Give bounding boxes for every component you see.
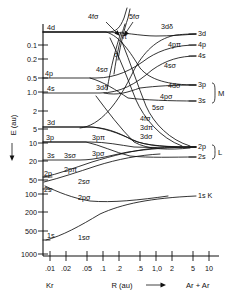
right-level-label-3p: 3p <box>198 80 206 89</box>
right-level-label-1s-K: 1s K <box>198 191 213 200</box>
right-level-label-4p: 4p <box>198 40 206 49</box>
right-level-label-4s: 4s <box>198 51 206 60</box>
left-level-label-3p: 3p <box>46 133 54 142</box>
left-level-label-1s: 1s <box>47 231 55 240</box>
diagram-canvas: 0.1 0.2 0.5 1.0 2 5 10 20 50 100 200 500… <box>0 0 231 301</box>
mo-label-5s-sigma: 5sσ <box>152 103 165 112</box>
mo-label-4d-sigma: 4dσ <box>168 81 181 90</box>
left-level-label-2p: 2p <box>44 169 52 178</box>
y-tick-label: 5 <box>33 125 37 134</box>
left-level-label-3d: 3d <box>47 118 55 127</box>
y-tick-label: 100 <box>25 190 37 199</box>
x-tick-label: .01 <box>45 264 55 273</box>
x-tick-label: 1,0 <box>152 264 162 273</box>
mo-label-3d-delta-upper: 3dδ <box>161 22 173 31</box>
left-level-label-2s: 2s <box>44 185 52 194</box>
united-atom-label: Kr <box>46 281 54 290</box>
y-tick-label: 2 <box>33 107 37 116</box>
mo-label-2p-sigma: 2pσ <box>78 193 91 202</box>
curve-4f-sigma <box>43 8 127 32</box>
x-axis-tick-labels: .01 .02 .05 .1 .2 .5 1,0 2 5 10 <box>45 264 213 273</box>
shell-label-M: M <box>218 89 224 98</box>
shell-bracket-L: L <box>212 145 222 159</box>
left-level-label-3s: 3s <box>47 151 55 160</box>
mo-label-4p-pi: 4pπ <box>168 40 181 49</box>
mo-label-3p-pi: 3pπ <box>92 133 105 142</box>
shell-bracket-M: M <box>212 83 224 103</box>
center-annotation-line-2: 3dπ <box>140 123 153 132</box>
x-axis-title: R (au) <box>111 281 133 290</box>
y-axis-title-group: E (au) <box>9 114 18 161</box>
right-level-label-2s: 2s <box>198 152 206 161</box>
left-level-labels: 4d 4p 4s 3d 3p 3s 2p 2s 1s <box>44 23 55 240</box>
curve-1s-sigma <box>46 196 196 240</box>
mo-label-4f-sigma: 4fσ <box>88 12 99 21</box>
mo-label-4s-sigma: 4sσ <box>96 65 109 74</box>
right-level-labels: 3d 4p 4s 3p 3s 2p 2s 1s K <box>198 29 213 200</box>
y-tick-label: 0.2 <box>27 55 37 64</box>
right-level-stubs <box>189 34 196 157</box>
curve-2p-sigma <box>45 186 168 202</box>
x-tick-label: .2 <box>116 264 122 273</box>
correlation-diagram-figure: 0.1 0.2 0.5 1.0 2 5 10 20 50 100 200 500… <box>0 0 231 301</box>
shell-label-L: L <box>218 148 222 157</box>
mo-label-4p-sigma: 4pσ <box>160 92 173 101</box>
left-level-label-4s: 4s <box>47 84 55 93</box>
x-tick-label: 10 <box>205 264 213 273</box>
x-tick-label: .1 <box>100 264 106 273</box>
x-tick-label: .05 <box>82 264 92 273</box>
axis-frame <box>43 24 219 256</box>
x-tick-label: 2 <box>170 264 174 273</box>
mo-label-2s-sigma: 2sσ <box>78 177 91 186</box>
curve-2s-sigma <box>44 154 160 182</box>
mo-label-1s-sigma: 1sσ <box>78 233 91 242</box>
mo-arrows <box>106 22 133 37</box>
y-tick-label: 200 <box>25 208 37 217</box>
separated-atom-label: Ar + Ar <box>186 281 210 290</box>
y-tick-label: 0.5 <box>27 74 37 83</box>
right-level-label-3s: 3s <box>198 96 206 105</box>
mo-label-3d-delta: 3dδ <box>96 83 108 92</box>
y-tick-label: 1.0 <box>27 88 37 97</box>
curve-3d-pi <box>43 127 196 147</box>
y-tick-label: 500 <box>25 227 37 236</box>
mo-label-2p-pi: 2pπ <box>64 165 77 174</box>
y-tick-label: 0.1 <box>27 41 37 50</box>
y-tick-label: 20 <box>29 157 37 166</box>
mo-label-sigma: σ <box>114 50 119 59</box>
right-level-label-3d: 3d <box>198 29 206 38</box>
x-axis-arrowhead-icon <box>161 283 167 288</box>
curve-sigma-riser <box>107 32 121 90</box>
curve-3d-sigma <box>43 127 196 147</box>
mo-label-4s-sigma-right: 4sσ <box>164 61 177 70</box>
y-axis-arrowhead-icon <box>10 156 15 162</box>
left-level-label-4p: 4p <box>45 69 53 78</box>
y-tick-label: 1000 <box>21 250 37 259</box>
x-axis-title-group: R (au) <box>111 281 166 290</box>
curve-5s-sigma <box>104 85 196 94</box>
center-annotation: 4fσ 3dπ 3dσ <box>140 114 153 141</box>
mo-label-3p-sigma: 3pσ <box>92 149 105 158</box>
right-level-label-2p: 2p <box>198 142 206 151</box>
x-tick-label: 5 <box>191 264 195 273</box>
center-annotation-line-1: 4fσ <box>140 114 151 123</box>
y-axis-title: E (au) <box>9 114 18 135</box>
left-level-label-4d: 4d <box>47 23 55 32</box>
y-tick-label: 10 <box>29 139 37 148</box>
y-axis-tick-labels: 0.1 0.2 0.5 1.0 2 5 10 20 50 100 200 500… <box>21 41 37 259</box>
x-tick-label: .02 <box>61 264 71 273</box>
mo-label-5f-sigma: 5fσ <box>129 12 140 21</box>
mo-label-pi: π <box>122 32 127 41</box>
mo-label-3s-sigma: 3sσ <box>64 151 77 160</box>
center-annotation-line-3: 3dσ <box>140 132 153 141</box>
x-tick-label: .5 <box>137 264 143 273</box>
y-tick-label: 50 <box>29 176 37 185</box>
